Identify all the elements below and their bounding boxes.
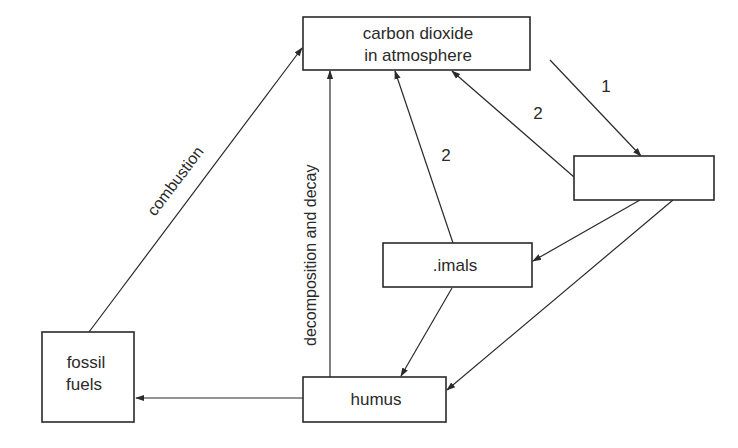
node-fossil-line2: fuels [66,375,102,394]
edge-label-combustion: combustion [144,143,207,219]
node-animals-label: .imals [433,256,477,275]
edge-animals-to-humus [401,288,452,376]
node-co2-line2: in atmosphere [364,46,472,65]
edge-unlabeled-to-animals [533,200,640,261]
edge-unlabeled-to-co2: 2 [452,71,574,177]
edge-label-2-upper: 2 [533,104,542,123]
edge-label-1: 1 [601,77,610,96]
node-animals: .imals [383,243,532,287]
node-fossil-line1: fossil [67,353,106,372]
edge-fossil-to-co2: combustion [89,48,302,332]
carbon-cycle-diagram: 1 2 2 decomposition and decay combustion… [0,0,738,448]
node-carbon-dioxide: carbon dioxide in atmosphere [303,17,530,70]
node-fossil-fuels: fossil fuels [42,332,134,422]
edge-humus-to-co2: decomposition and decay [302,71,330,377]
node-unlabeled [574,156,714,200]
edge-label-decomposition: decomposition and decay [302,165,319,346]
edge-unlabeled-to-humus [447,200,673,390]
edge-label-2-lower: 2 [441,146,450,165]
node-co2-line1: carbon dioxide [363,24,474,43]
edge-co2-to-unlabeled: 1 [550,60,641,156]
edge-animals-to-co2: 2 [395,71,453,243]
node-humus-label: humus [350,390,401,409]
node-humus: humus [303,377,446,422]
